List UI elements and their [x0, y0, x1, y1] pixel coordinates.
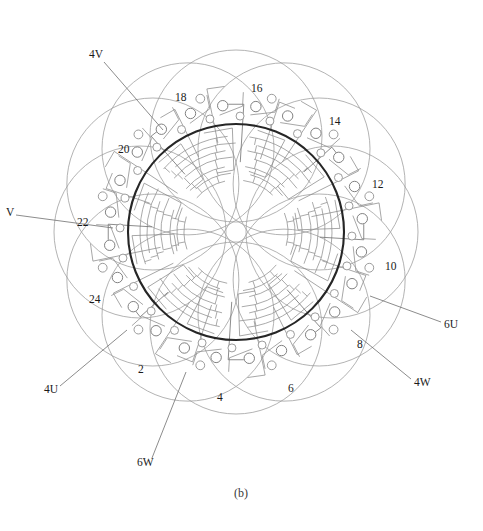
- slot-4: 4: [217, 391, 223, 403]
- stator-bore-circle: [128, 124, 344, 340]
- winding-terminal-node: [330, 289, 338, 297]
- winding-step-riser: [178, 221, 185, 222]
- winding-step-riser: [172, 218, 179, 220]
- slot-22: 22: [77, 216, 89, 228]
- end-winding-arc: [243, 274, 278, 291]
- winding-step-riser: [197, 187, 202, 192]
- winding-step-riser: [165, 168, 170, 173]
- end-winding-arc: [242, 285, 289, 307]
- winding-step-riser: [216, 169, 218, 176]
- winding-step-riser: [315, 207, 322, 209]
- end-winding-arc: [170, 210, 174, 254]
- winding-step-riser: [282, 178, 288, 184]
- coil-petal: [233, 194, 405, 366]
- winding-terminal-node: [134, 325, 143, 334]
- leader-line-6u: [370, 296, 441, 322]
- winding-step-riser: [289, 174, 294, 179]
- winding-terminal-node: [347, 278, 357, 288]
- winding-terminal-node: [251, 101, 261, 111]
- winding-step-riser: [215, 312, 217, 319]
- winding-step-riser: [216, 319, 217, 326]
- winding-step-riser: [215, 145, 217, 152]
- figure-caption: (b): [234, 486, 248, 500]
- winding-terminal-node: [311, 313, 319, 321]
- slot-14: 14: [329, 115, 341, 127]
- winding-terminal-node: [365, 192, 374, 201]
- winding-step-riser: [255, 312, 257, 319]
- winding-step-riser: [270, 187, 275, 192]
- slot-16: 16: [251, 82, 263, 94]
- slot-8: 8: [357, 338, 363, 350]
- winding-step-riser: [215, 295, 218, 304]
- inner-concentric-arc-group: [140, 136, 332, 327]
- winding-terminal-node: [196, 361, 205, 370]
- winding-terminal-node: [267, 361, 276, 370]
- winding-terminal-node: [218, 101, 228, 111]
- winding-terminal-node: [211, 352, 221, 362]
- end-winding-arc: [186, 275, 225, 297]
- winding-step-riser: [157, 211, 164, 213]
- winding-terminal-node: [329, 325, 338, 334]
- end-winding-arc: [304, 212, 311, 264]
- winding-step-riser: [254, 288, 256, 295]
- winding-step-riser: [215, 160, 218, 169]
- coil-petal: [67, 194, 239, 366]
- winding-terminal-node: [276, 345, 286, 355]
- winding-terminal-node: [153, 143, 161, 151]
- winding-terminal-node: [178, 126, 186, 134]
- winding-step-riser: [157, 252, 164, 254]
- winding-step-riser: [296, 171, 301, 176]
- winding-step-riser: [255, 305, 257, 312]
- winding-step-riser: [302, 292, 307, 297]
- winding-step-riser: [287, 242, 294, 243]
- winding-step-riser: [276, 183, 281, 188]
- winding-step-riser: [215, 305, 217, 312]
- end-winding-arc: [239, 295, 299, 321]
- winding-step-riser: [178, 285, 183, 290]
- winding-terminal-node: [198, 339, 206, 347]
- winding-step-riser: [192, 276, 197, 281]
- winding-terminal-node: [206, 115, 214, 123]
- winding-terminal-node: [151, 326, 161, 336]
- winding-terminal-node: [293, 130, 301, 138]
- winding-terminal-node: [236, 112, 244, 120]
- slot-18: 18: [175, 91, 187, 103]
- winding-terminal-node: [267, 94, 276, 103]
- winding-terminal-node: [334, 152, 344, 162]
- end-winding-arc: [249, 274, 287, 297]
- winding-step-riser: [308, 252, 315, 254]
- label-group: 4VV4U6W4W6U24681012141618202224: [6, 48, 459, 468]
- winding-terminal-node: [282, 111, 292, 121]
- end-winding-arc: [188, 267, 220, 289]
- winding-step-riser: [294, 245, 301, 247]
- winding-step-riser: [171, 288, 176, 293]
- leader-line-4v: [104, 62, 163, 130]
- winding-step-riser: [184, 178, 190, 184]
- end-winding-arc: [290, 216, 295, 254]
- winding-terminal-node: [98, 192, 107, 201]
- winding-terminal-node: [98, 263, 107, 272]
- winding-terminal-node: [147, 307, 155, 315]
- winding-terminal-node: [171, 326, 179, 334]
- stator-winding-diagram: 4VV4U6W4W6U24681012141618202224 (b): [0, 0, 483, 531]
- slot-20: 20: [118, 143, 130, 155]
- winding-terminal-node: [349, 181, 359, 191]
- winding-step-riser: [255, 153, 257, 160]
- leader-line-group: [16, 62, 441, 458]
- end-winding-arc: [315, 208, 325, 273]
- winding-terminal-node: [330, 307, 340, 317]
- winding-step-riser: [172, 245, 179, 247]
- terminal-4W: 4W: [414, 376, 431, 388]
- winding-terminal-node: [156, 124, 166, 134]
- end-winding-arc: [325, 197, 332, 269]
- winding-terminal-node: [128, 301, 138, 311]
- winding-step-riser: [151, 207, 158, 209]
- winding-terminal-node: [348, 232, 356, 240]
- end-winding-arc: [247, 151, 298, 179]
- coil-jumper-path: [204, 128, 234, 173]
- winding-terminal-node: [121, 194, 129, 202]
- winding-step-riser: [163, 248, 172, 250]
- winding-terminal-node: [119, 254, 127, 262]
- slot-2: 2: [138, 363, 144, 375]
- winding-terminal-node: [179, 343, 189, 353]
